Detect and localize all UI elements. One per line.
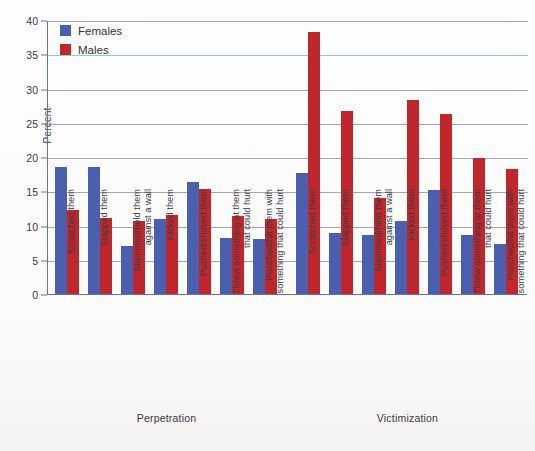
legend-swatch-icon <box>60 25 71 36</box>
x-axis-label: Threw something at them that could hurt <box>472 189 493 299</box>
y-axis-tick-label: 5 <box>0 255 38 267</box>
x-axis-label: Scratched them <box>66 189 77 299</box>
legend-label: Males <box>78 44 109 56</box>
y-axis-tick-label: 35 <box>0 49 38 61</box>
y-axis-tick-label: 10 <box>0 221 38 233</box>
y-axis-tick-label: 40 <box>0 15 38 27</box>
x-axis-label: Slapped them <box>340 189 351 299</box>
y-axis-tick-label: 0 <box>0 289 38 301</box>
x-axis-label: Slapped them <box>99 189 110 299</box>
x-axis-label: Kicked them <box>165 189 176 299</box>
x-axis-label: Kicked them <box>406 189 417 299</box>
y-axis-tick-label: 25 <box>0 118 38 130</box>
group-caption-perpetration: Perpetration <box>107 412 227 424</box>
x-axis-label: Threw something at them that could hurt <box>231 189 252 299</box>
group-caption-victimization: Victimization <box>348 412 468 424</box>
y-axis-tick-label: 30 <box>0 84 38 96</box>
legend-label: Females <box>78 25 122 37</box>
x-axis-label: Pushed/shoved them <box>439 189 450 299</box>
x-axis-label: Slammed/held them against a wall <box>132 189 153 299</box>
y-axis-tick-label: 15 <box>0 186 38 198</box>
x-axis-label: Slammed/held them against a wall <box>373 189 394 299</box>
legend-swatch-icon <box>60 44 71 55</box>
legend: FemalesMales <box>60 22 122 60</box>
x-axis-label: Pushed/shoved them <box>198 189 209 299</box>
legend-item-males: Males <box>60 41 122 58</box>
plot-area <box>47 21 527 295</box>
bars-layer <box>48 21 527 294</box>
bar-chart: Percent 0510152025303540 FemalesMales Sc… <box>0 0 535 451</box>
x-axis-label: Punched/hit them with something that cou… <box>264 189 285 299</box>
x-axis-label: Scratched them <box>307 189 318 299</box>
y-axis-tick-label: 20 <box>0 152 38 164</box>
x-axis-label: Punched/hit them with something that cou… <box>505 189 526 299</box>
legend-item-females: Females <box>60 22 122 39</box>
